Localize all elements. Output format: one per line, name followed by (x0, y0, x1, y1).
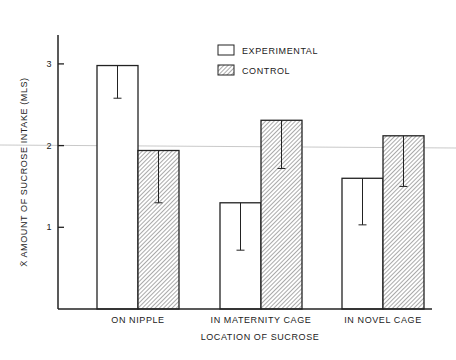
y-tick-label: 3 (46, 59, 52, 69)
legend-label-control: CONTROL (242, 66, 290, 76)
x-tick-label: IN MATERNITY CAGE (211, 315, 312, 325)
legend: EXPERIMENTAL CONTROL (218, 45, 318, 76)
bar-chart: 123 ON NIPPLEIN MATERNITY CAGEIN NOVEL C… (0, 0, 456, 360)
x-axis-title: LOCATION OF SUCROSE (201, 332, 320, 342)
y-tick-label: 2 (46, 141, 52, 151)
y-tick-label: 1 (46, 222, 52, 232)
x-tick-label: ON NIPPLE (111, 315, 164, 325)
bars-group (97, 66, 424, 309)
x-category-labels: ON NIPPLEIN MATERNITY CAGEIN NOVEL CAGE (111, 315, 421, 325)
x-tick-label: IN NOVEL CAGE (344, 315, 421, 325)
bar-experimental-1 (97, 66, 138, 309)
y-axis-title: X̄ AMOUNT OF SUCROSE INTAKE (MLS) (19, 77, 29, 266)
legend-swatch-experimental (218, 45, 234, 55)
legend-label-experimental: EXPERIMENTAL (242, 46, 318, 56)
legend-swatch-control (218, 65, 234, 75)
